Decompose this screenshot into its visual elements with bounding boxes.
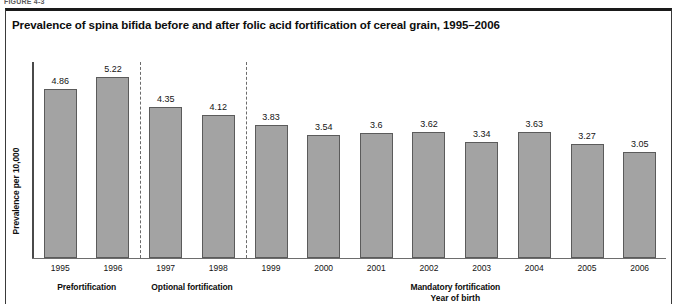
bar-1995 (44, 89, 77, 258)
bar-value-label-2003: 3.34 (456, 129, 508, 139)
bar-value-label-1998: 4.12 (192, 102, 244, 112)
group-separator-1 (140, 62, 141, 258)
bar-value-label-2001: 3.6 (350, 120, 402, 130)
x-tick-label-2003: 2003 (456, 263, 508, 273)
bar-value-label-2000: 3.54 (298, 122, 350, 132)
bars-layer: 4.8619955.2219964.3519974.1219983.831999… (0, 0, 681, 306)
x-tick-label-2002: 2002 (403, 263, 455, 273)
x-tick-label-2005: 2005 (561, 263, 613, 273)
bar-2003 (465, 142, 498, 258)
figure-container: FIGURE 4-3 Prevalence of spina bifida be… (0, 0, 681, 306)
x-tick-label-2001: 2001 (350, 263, 402, 273)
bar-value-label-1996: 5.22 (87, 64, 139, 74)
bar-2004 (518, 132, 551, 258)
bar-2001 (360, 133, 393, 258)
x-tick-label-1996: 1996 (87, 263, 139, 273)
group-separator-2 (246, 62, 247, 258)
bar-value-label-2004: 3.63 (508, 119, 560, 129)
bar-2005 (571, 144, 604, 258)
x-tick-label-1999: 1999 (245, 263, 297, 273)
bar-1999 (255, 125, 288, 258)
bar-value-label-2005: 3.27 (561, 131, 613, 141)
x-tick-label-2004: 2004 (508, 263, 560, 273)
bar-value-label-1995: 4.86 (34, 76, 86, 86)
x-tick-label-1995: 1995 (34, 263, 86, 273)
bar-1997 (149, 107, 182, 258)
bar-value-label-2006: 3.05 (614, 139, 666, 149)
x-tick-label-2000: 2000 (298, 263, 350, 273)
group-label-3: Mandatory fortification (365, 282, 545, 292)
bar-1998 (202, 115, 235, 258)
bar-2000 (307, 135, 340, 258)
x-tick-label-1998: 1998 (192, 263, 244, 273)
bar-value-label-1997: 4.35 (140, 94, 192, 104)
bar-2002 (412, 132, 445, 258)
bar-2006 (623, 152, 656, 258)
bar-value-label-1999: 3.83 (245, 112, 297, 122)
bar-value-label-2002: 3.62 (403, 119, 455, 129)
x-axis-title: Year of birth (365, 293, 545, 303)
group-label-2: Optional fortification (102, 282, 282, 292)
bar-1996 (96, 77, 129, 258)
x-tick-label-2006: 2006 (614, 263, 666, 273)
x-tick-label-1997: 1997 (140, 263, 192, 273)
